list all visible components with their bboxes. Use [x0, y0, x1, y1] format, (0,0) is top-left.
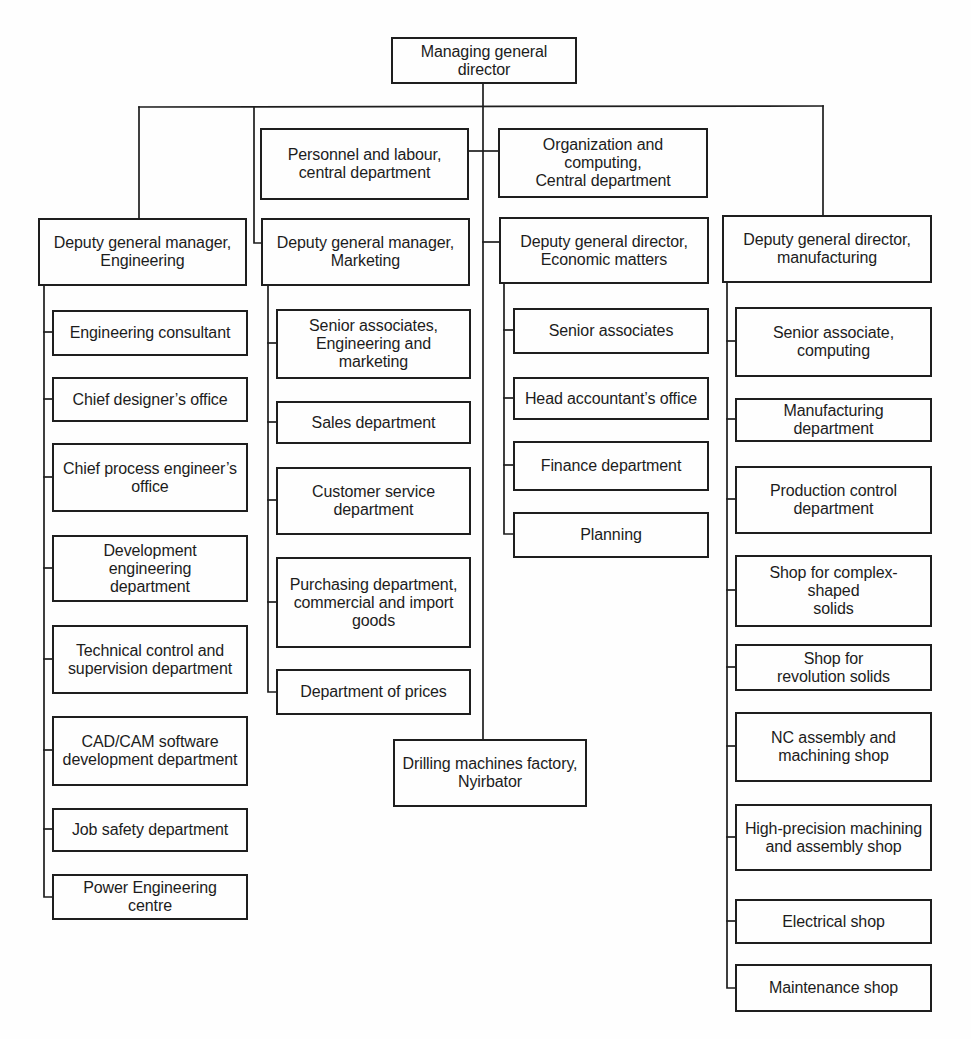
- unit-label: Senior associates, Engineering and marke…: [309, 317, 438, 371]
- deputy-marketing-box: Deputy general manager, Marketing: [261, 218, 470, 286]
- unit-label: Development engineering department: [103, 542, 196, 596]
- manufacturing-unit-box: Maintenance shop: [735, 964, 932, 1012]
- top-bus-line: [139, 106, 823, 107]
- unit-label: Chief process engineer’s office: [63, 460, 237, 496]
- engineering-unit-box: Engineering consultant: [52, 310, 248, 356]
- unit-label: High-precision machining and assembly sh…: [745, 820, 922, 856]
- unit-label: Purchasing department, commercial and im…: [290, 576, 458, 630]
- personnel-department-box: Personnel and labour, central department: [260, 128, 469, 200]
- unit-label: Customer service department: [312, 483, 435, 519]
- unit-label: Department of prices: [300, 683, 447, 701]
- deputy-manufacturing-label: Deputy general director, manufacturing: [743, 231, 910, 267]
- economic-unit-box: Senior associates: [513, 308, 709, 354]
- deputy-economic-box: Deputy general director, Economic matter…: [499, 217, 709, 284]
- unit-label: Senior associates: [549, 322, 674, 340]
- unit-label: NC assembly and machining shop: [771, 729, 896, 765]
- manufacturing-unit-box: Manufacturing department: [735, 398, 932, 442]
- manufacturing-spine-line: [727, 282, 735, 988]
- deputy-manufacturing-box: Deputy general director, manufacturing: [722, 215, 932, 283]
- unit-label: Chief designer’s office: [72, 391, 227, 409]
- unit-label: Power Engineering centre: [83, 879, 217, 915]
- engineering-unit-box: Power Engineering centre: [52, 874, 248, 920]
- unit-label: Manufacturing department: [783, 402, 883, 438]
- drilling-factory-box: Drilling machines factory, Nyirbator: [393, 739, 587, 807]
- marketing-spine-line: [268, 285, 276, 692]
- unit-label: CAD/CAM software development department: [63, 733, 238, 769]
- engineering-unit-box: Job safety department: [52, 808, 248, 852]
- personnel-department-label: Personnel and labour, central department: [288, 146, 442, 182]
- engineering-unit-box: CAD/CAM software development department: [52, 716, 248, 786]
- marketing-unit-box: Department of prices: [276, 669, 471, 715]
- engineering-unit-box: Technical control and supervision depart…: [52, 625, 248, 694]
- manufacturing-unit-box: Electrical shop: [735, 899, 932, 944]
- deputy-economic-label: Deputy general director, Economic matter…: [520, 233, 687, 269]
- manufacturing-unit-box: Shop for complex- shaped solids: [735, 555, 932, 627]
- unit-label: Electrical shop: [782, 913, 885, 931]
- engineering-unit-box: Chief designer’s office: [52, 377, 248, 422]
- manufacturing-unit-box: Shop for revolution solids: [735, 644, 932, 691]
- economic-unit-box: Finance department: [513, 441, 709, 491]
- unit-label: Production control department: [770, 482, 897, 518]
- deputy-engineering-label: Deputy general manager, Engineering: [54, 234, 231, 270]
- deputy-marketing-label: Deputy general manager, Marketing: [277, 234, 454, 270]
- economic-spine-line: [504, 283, 513, 534]
- unit-label: Senior associate, computing: [773, 324, 894, 360]
- unit-label: Shop for revolution solids: [777, 650, 890, 686]
- unit-label: Sales department: [312, 414, 436, 432]
- drilling-factory-label: Drilling machines factory, Nyirbator: [403, 755, 578, 791]
- unit-label: Engineering consultant: [70, 324, 231, 342]
- marketing-unit-box: Sales department: [276, 401, 471, 444]
- unit-label: Planning: [580, 526, 641, 544]
- unit-label: Shop for complex- shaped solids: [769, 564, 897, 618]
- unit-label: Head accountant’s office: [525, 390, 697, 408]
- marketing-unit-box: Purchasing department, commercial and im…: [276, 557, 471, 648]
- marketing-unit-box: Customer service department: [276, 467, 471, 535]
- manufacturing-unit-box: NC assembly and machining shop: [735, 712, 932, 782]
- manufacturing-unit-box: Senior associate, computing: [735, 307, 932, 377]
- unit-label: Finance department: [541, 457, 682, 475]
- economic-unit-box: Head accountant’s office: [513, 377, 709, 420]
- unit-label: Job safety department: [72, 821, 228, 839]
- organization-computing-box: Organization and computing, Central depa…: [498, 128, 708, 198]
- engineering-spine-line: [44, 285, 52, 897]
- engineering-unit-box: Development engineering department: [52, 535, 248, 602]
- manufacturing-unit-box: Production control department: [735, 466, 932, 534]
- unit-label: Maintenance shop: [769, 979, 898, 997]
- org-chart: Managing general director Personnel and …: [0, 0, 971, 1039]
- engineering-unit-box: Chief process engineer’s office: [52, 443, 248, 512]
- unit-label: Technical control and supervision depart…: [68, 642, 232, 678]
- organization-computing-label: Organization and computing, Central depa…: [535, 136, 670, 190]
- managing-director-label: Managing general director: [421, 43, 548, 79]
- marketing-unit-box: Senior associates, Engineering and marke…: [276, 309, 471, 379]
- deputy-engineering-box: Deputy general manager, Engineering: [38, 218, 247, 286]
- managing-director-box: Managing general director: [391, 37, 577, 84]
- economic-unit-box: Planning: [513, 512, 709, 558]
- manufacturing-unit-box: High-precision machining and assembly sh…: [735, 804, 932, 871]
